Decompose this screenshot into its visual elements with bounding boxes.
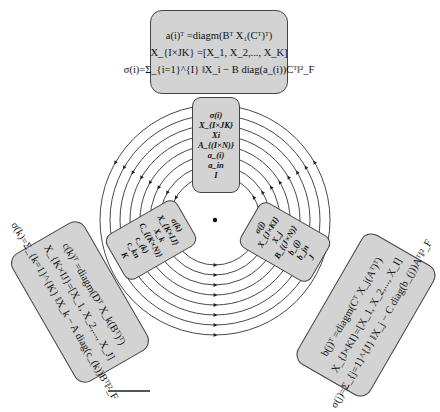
arrowhead-icon bbox=[214, 273, 218, 277]
formula-sigma-i: σ(i)=Σ_{i=1}^{I} ‖X_i − B diag(a_(i))Cᵀ‖… bbox=[124, 61, 315, 78]
arrowhead-icon bbox=[214, 333, 218, 337]
bottom-rule bbox=[108, 390, 150, 392]
inner-top-line-6: I bbox=[214, 170, 217, 180]
arrowhead-icon bbox=[214, 303, 218, 307]
inner-left-line-6: K bbox=[119, 250, 130, 260]
inner-top-line-0: σ(i) bbox=[210, 110, 223, 120]
inner-top-line-2: Xi bbox=[212, 130, 220, 140]
arrowhead-icon bbox=[214, 263, 218, 267]
inner-top-line-3: A_{(I×N)} bbox=[198, 140, 234, 150]
outer-box-top: a(i)ᵀ =diagm(Bᵀ X₁(Cᵀ)ᵀ) X_{I×JK} =[X_1,… bbox=[150, 10, 288, 94]
inner-top-line-4: a_(i) bbox=[208, 150, 225, 160]
inner-box-top: σ(i) X_{I×JK} Xi A_{(I×N)} a_(i) a_in I bbox=[192, 97, 240, 193]
inner-top-line-1: X_{I×JK} bbox=[199, 120, 233, 130]
formula-a-update: a(i)ᵀ =diagm(Bᵀ X₁(Cᵀ)ᵀ) bbox=[166, 27, 272, 44]
arrowhead-icon bbox=[214, 283, 218, 287]
arrowhead-icon bbox=[214, 323, 218, 327]
formula-unfold-i: X_{I×JK} =[X_1, X_2,..., X_K] bbox=[150, 44, 287, 61]
inner-right-line-6: J bbox=[306, 253, 317, 262]
arrowhead-icon bbox=[214, 313, 218, 317]
inner-top-line-5: a_in bbox=[208, 160, 224, 170]
arrowhead-icon bbox=[214, 293, 218, 297]
center-dot bbox=[213, 218, 217, 222]
